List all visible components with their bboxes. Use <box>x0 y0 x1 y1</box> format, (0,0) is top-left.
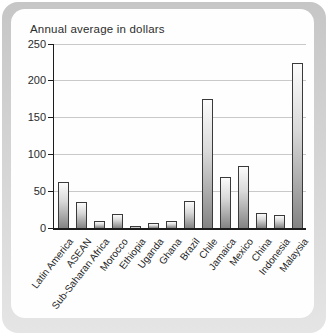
y-axis-label: 0 <box>40 222 46 234</box>
figure: Annual average in dollars 05010015020025… <box>0 0 326 333</box>
y-tick-150 <box>48 117 53 118</box>
bar-indonesia <box>274 215 285 228</box>
bar-china <box>256 213 267 228</box>
y-axis-label: 150 <box>28 111 46 123</box>
bar-morocco <box>112 214 123 228</box>
bar-sub-saharan-africa <box>94 221 105 228</box>
bar-mexico <box>238 166 249 228</box>
bar-jamaica <box>220 177 231 228</box>
y-tick-0 <box>48 228 53 229</box>
bar-uganda <box>148 223 159 228</box>
gridline-50 <box>54 191 306 192</box>
chart-title: Annual average in dollars <box>30 23 165 35</box>
gridline-250 <box>54 44 306 45</box>
plot-area: 050100150200250Latin AmericaASEANSub-Sah… <box>53 44 306 230</box>
y-axis-label: 250 <box>28 38 46 50</box>
y-tick-250 <box>48 44 53 45</box>
bar-brazil <box>184 201 195 228</box>
gridline-150 <box>54 117 306 118</box>
y-tick-50 <box>48 191 53 192</box>
bar-malaysia <box>292 63 303 228</box>
y-tick-100 <box>48 154 53 155</box>
y-axis-label: 200 <box>28 74 46 86</box>
gridline-100 <box>54 154 306 155</box>
bar-asean <box>76 202 87 228</box>
bar-latin-america <box>58 182 69 228</box>
gridline-200 <box>54 80 306 81</box>
bar-ghana <box>166 221 177 228</box>
bar-chile <box>202 99 213 228</box>
bar-ethiopia <box>130 226 141 228</box>
y-axis-label: 50 <box>34 185 46 197</box>
y-tick-200 <box>48 80 53 81</box>
y-axis-label: 100 <box>28 148 46 160</box>
